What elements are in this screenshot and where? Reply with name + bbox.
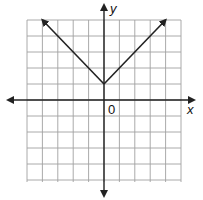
- x-axis-label: x: [187, 102, 194, 117]
- axes: [8, 5, 194, 196]
- origin-label: 0: [108, 102, 115, 117]
- y-axis-label: y: [110, 1, 117, 16]
- coordinate-plane: [0, 0, 203, 200]
